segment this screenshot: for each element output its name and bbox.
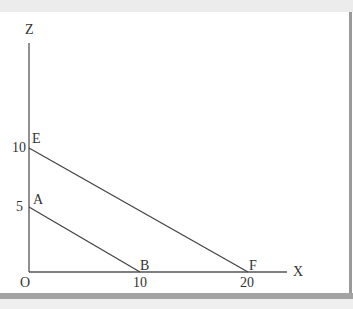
point-a-label: A (33, 193, 43, 207)
line-ab (29, 207, 140, 272)
z-axis-label: Z (25, 23, 34, 37)
z-tick-5: 5 (16, 200, 23, 214)
point-e-label: E (32, 132, 41, 146)
x-axis-label: X (293, 265, 303, 279)
x-tick-10: 10 (133, 276, 147, 290)
line-ef (29, 148, 248, 272)
origin-label: O (20, 276, 30, 290)
point-f-label: F (249, 259, 257, 273)
z-tick-10: 10 (12, 141, 26, 155)
x-tick-20: 20 (240, 276, 254, 290)
point-b-label: B (140, 259, 149, 273)
diagram-canvas (0, 0, 353, 309)
